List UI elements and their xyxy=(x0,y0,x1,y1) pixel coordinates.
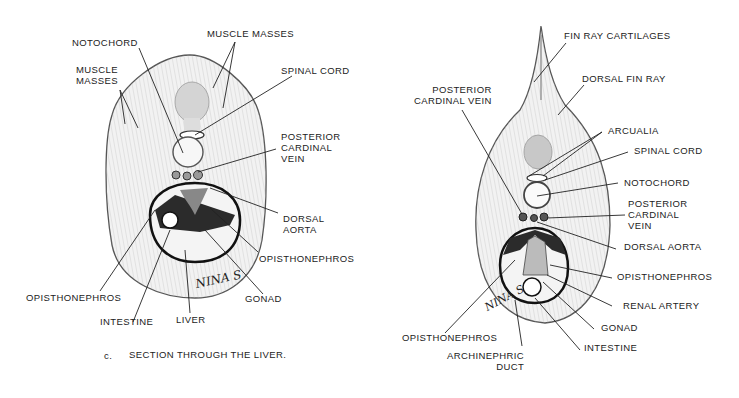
label-gonad: GONAD xyxy=(245,293,282,304)
label-posterior-cardinal-vein: POSTERIOR CARDINAL VEIN xyxy=(281,131,341,164)
label-archinephric-duct: ARCHINEPHRIC DUCT xyxy=(447,350,524,372)
right-pcv-1 xyxy=(519,213,527,221)
label-intestine: INTESTINE xyxy=(100,316,153,327)
label-dorsal-fin-ray: DORSAL FIN RAY xyxy=(582,73,666,84)
left-spinal-cord xyxy=(175,82,209,122)
label-opisthonephros-left-r: OPISTHONEPHROS xyxy=(402,332,497,343)
label-opisthonephros-right-r: OPISTHONEPHROS xyxy=(617,271,712,282)
label-notochord: NOTOCHORD xyxy=(72,37,138,48)
label-intestine-right: INTESTINE xyxy=(584,342,637,353)
label-posterior-cardinal-vein-right: POSTERIOR CARDINAL VEIN xyxy=(628,198,688,231)
label-dorsal-aorta-right: DORSAL AORTA xyxy=(624,241,701,252)
left-pcv-1 xyxy=(172,171,180,179)
label-muscle-masses-left: MUSCLE MASSES xyxy=(76,64,118,86)
left-intestine xyxy=(162,212,178,228)
right-aorta xyxy=(531,215,538,222)
label-spinal-cord: SPINAL CORD xyxy=(281,65,349,76)
label-opisthonephros-left: OPISTHONEPHROS xyxy=(26,292,121,303)
label-renal-artery: RENAL ARTERY xyxy=(623,300,699,311)
right-pcv-2 xyxy=(540,213,548,221)
label-liver: LIVER xyxy=(176,314,205,325)
caption-letter: c. xyxy=(104,350,112,361)
right-notochord xyxy=(524,182,550,208)
label-muscle-masses-top: MUSCLE MASSES xyxy=(207,28,294,39)
right-spinal-cord xyxy=(524,135,552,169)
left-notochord xyxy=(173,137,203,167)
label-spinal-cord-right: SPINAL CORD xyxy=(634,145,702,156)
label-opisthonephros-right: OPISTHONEPHROS xyxy=(259,253,354,264)
label-posterior-cardinal-vein-left: POSTERIOR CARDINAL VEIN xyxy=(414,84,492,106)
label-arcualia: ARCUALIA xyxy=(608,125,659,136)
label-notochord-right: NOTOCHORD xyxy=(624,177,690,188)
label-fin-ray-cartilages: FIN RAY CARTILAGES xyxy=(564,30,670,41)
label-dorsal-aorta: DORSAL AORTA xyxy=(283,213,324,235)
label-gonad-right: GONAD xyxy=(601,322,638,333)
caption: SECTION THROUGH THE LIVER. xyxy=(129,349,286,360)
left-aorta xyxy=(183,172,191,180)
